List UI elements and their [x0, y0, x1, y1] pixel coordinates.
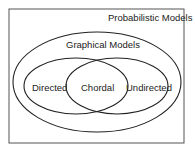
probabilistic-models-box — [9, 9, 184, 143]
directed-label: Directed — [32, 83, 67, 93]
graphical-models-label: Graphical Models — [66, 40, 140, 50]
undirected-label: Undirected — [126, 83, 172, 93]
chordal-label: Chordal — [81, 83, 114, 93]
probabilistic-models-label: Probabilistic Models — [108, 13, 192, 23]
